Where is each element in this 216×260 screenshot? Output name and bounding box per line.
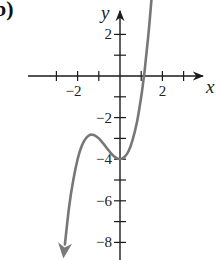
x-tick-label: −2 bbox=[66, 83, 82, 99]
cubic-graph: −222−2−4−6−8xy bbox=[0, 0, 216, 260]
y-tick-label: 2 bbox=[105, 26, 113, 42]
tick-labels: −222−2−4−6−8xy bbox=[66, 2, 215, 250]
y-tick-label: −2 bbox=[96, 110, 112, 126]
y-tick-label: −6 bbox=[96, 193, 112, 209]
axes bbox=[28, 11, 203, 260]
x-axis-label: x bbox=[205, 76, 215, 97]
x-tick-label: 2 bbox=[159, 83, 167, 99]
y-tick-label: −8 bbox=[96, 234, 112, 250]
y-axis-label: y bbox=[99, 2, 110, 23]
